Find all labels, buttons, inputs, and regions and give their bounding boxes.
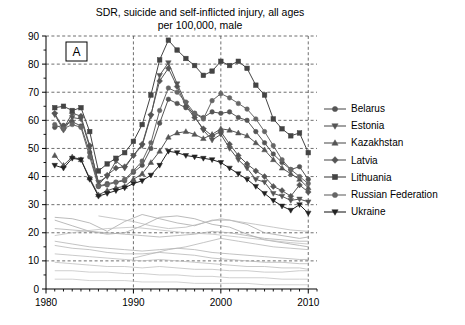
y-tick-label: 0: [33, 284, 39, 295]
y-tick-label: 20: [28, 227, 40, 238]
y-tick-label: 10: [28, 255, 40, 266]
y-tick-label: 60: [28, 115, 40, 126]
x-tick-label: 1990: [122, 297, 145, 308]
legend-marker-triangle-down-icon: [322, 206, 348, 218]
y-tick-label: 90: [28, 31, 40, 42]
legend-marker-circle-icon: [322, 103, 348, 115]
legend-label: Russian Federation: [348, 189, 438, 200]
legend-label: Kazakhstan: [348, 137, 403, 148]
x-tick-label: 1980: [35, 297, 58, 308]
legend-label: Ukraine: [348, 206, 385, 217]
legend-marker-triangle-down-icon: [322, 120, 348, 132]
x-tick-label: 2010: [297, 297, 320, 308]
legend-marker-square-icon: [322, 171, 348, 183]
legend-marker-triangle-up-icon: [322, 137, 348, 149]
legend-marker-diamond-icon: [322, 154, 348, 166]
y-tick-label: 70: [28, 87, 40, 98]
legend-item-kazakhstan[interactable]: Kazakhstan: [322, 134, 465, 151]
legend-label: Belarus: [348, 103, 385, 114]
chart-page: SDR, suicide and self-inflicted injury, …: [0, 0, 465, 325]
legend-item-estonia[interactable]: Estonia: [322, 117, 465, 134]
y-tick-label: 80: [28, 59, 40, 70]
legend-label: Lithuania: [348, 172, 392, 183]
y-tick-label: 40: [28, 171, 40, 182]
legend-label: Estonia: [348, 120, 384, 131]
tick-labels: 01020304050607080901980199020002010: [28, 31, 320, 308]
legend-item-ukraine[interactable]: Ukraine: [322, 203, 465, 220]
legend-item-lithuania[interactable]: Lithuania: [322, 169, 465, 186]
series-lines: [52, 38, 311, 216]
y-tick-label: 50: [28, 143, 40, 154]
x-tick-label: 2000: [210, 297, 233, 308]
panel-letter-text: A: [72, 45, 80, 59]
y-tick-label: 30: [28, 199, 40, 210]
panel-label-a: A: [66, 42, 87, 61]
background-series-lines: [55, 215, 309, 285]
chart-legend: BelarusEstoniaKazakhstanLatviaLithuaniaR…: [322, 100, 465, 220]
legend-marker-circle-icon: [322, 189, 348, 201]
legend-label: Latvia: [348, 155, 378, 166]
legend-item-russian-federation[interactable]: Russian Federation: [322, 186, 465, 203]
legend-item-latvia[interactable]: Latvia: [322, 152, 465, 169]
legend-item-belarus[interactable]: Belarus: [322, 100, 465, 117]
